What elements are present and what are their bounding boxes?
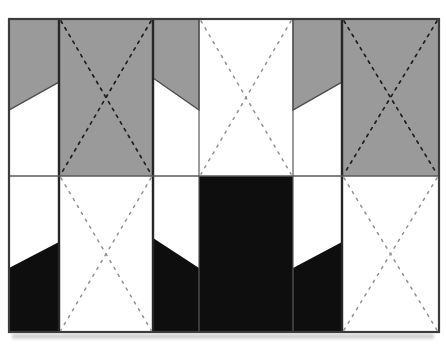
page-canvas bbox=[0, 0, 446, 344]
quilt-pattern-figure bbox=[0, 0, 446, 344]
scan-shadow bbox=[12, 334, 434, 339]
bottom-cell-4-black-panel bbox=[199, 176, 293, 332]
